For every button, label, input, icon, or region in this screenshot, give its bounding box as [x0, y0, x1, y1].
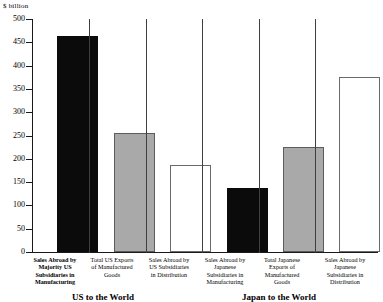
column-separator	[315, 19, 316, 253]
y-axis-tick-labels: 500 450 400 350 300 250 200 150 100 50 0	[0, 19, 25, 252]
y-tick-label: 450	[13, 38, 25, 46]
x-tick-label-line: Manufacturing	[21, 278, 89, 285]
x-tick-label-line: Subsidiaries in	[311, 271, 379, 278]
x-axis-line	[32, 252, 378, 253]
bar-0	[57, 36, 98, 252]
y-tick-label: 350	[13, 85, 25, 93]
y-tick-label: 150	[13, 178, 25, 186]
bar-3	[227, 188, 268, 252]
y-tick-label: 250	[13, 132, 25, 140]
bar-4	[283, 147, 324, 252]
x-tick-label-line: Goods	[249, 278, 315, 285]
y-tick-label: 200	[13, 155, 25, 163]
bar-5	[339, 77, 380, 252]
x-tick-label-line: Japanese	[311, 263, 379, 270]
y-axis-unit-label: $ billion	[3, 2, 28, 10]
bar-2	[170, 165, 211, 252]
column-separator	[259, 19, 260, 253]
column-separator	[89, 19, 90, 253]
column-separator	[146, 19, 147, 253]
group-caption-left: US to the World	[48, 292, 158, 302]
x-tick-label-4: Total Japanese Exports of Manufactured G…	[249, 256, 315, 286]
x-tick-label-5: Sales Abroad by Japanese Subsidiaries in…	[311, 256, 379, 286]
y-tick-label: 500	[13, 15, 25, 23]
column-separator	[202, 19, 203, 253]
plot-area	[33, 19, 377, 252]
x-tick-label-line: Total Japanese	[249, 256, 315, 263]
x-tick-label-line: Distribution	[311, 278, 379, 285]
y-tick-label: 50	[17, 225, 25, 233]
y-tick-label: 300	[13, 108, 25, 116]
group-caption-right: Japan to the World	[219, 292, 339, 302]
y-tick-label: 400	[13, 62, 25, 70]
x-tick-label-line: Sales Abroad by	[311, 256, 379, 263]
bar-1	[114, 133, 155, 252]
x-tick-label-line: Exports of	[249, 263, 315, 270]
y-tick-label: 0	[21, 248, 25, 256]
x-tick-label-line: Manufactured	[249, 271, 315, 278]
y-tick-label: 100	[13, 201, 25, 209]
